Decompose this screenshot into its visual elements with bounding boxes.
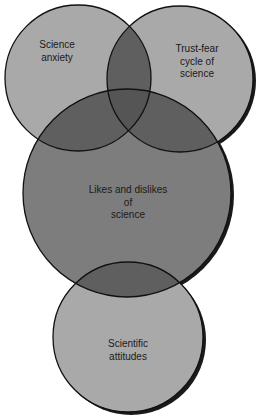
venn-diagram xyxy=(0,0,260,417)
